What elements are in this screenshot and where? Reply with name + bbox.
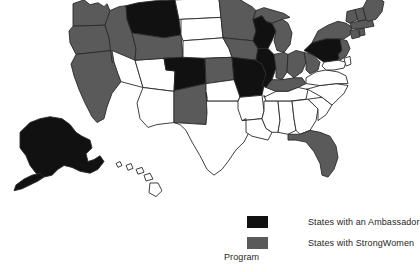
state-hawaii-island-2 [126,163,133,170]
legend-swatch-program [247,237,268,249]
state-washington [73,0,110,26]
legend-label-program: States with StrongWomen [308,238,414,249]
state-michigan [272,18,292,52]
state-rhode-island [359,28,365,36]
state-maine [363,0,384,21]
state-hawaii-island-5 [149,183,162,197]
state-minnesota [219,0,256,41]
state-hawaii-island-3 [136,167,144,174]
legend-label-ambassador: States with an Ambassador [308,217,420,228]
state-hawaii-island-4 [144,173,153,181]
legend-swatch-ambassador [247,216,268,228]
state-kansas [205,57,234,83]
legend-item-ambassador: States with an Ambassador [247,215,420,229]
map-legend: States with an Ambassador States with St… [224,210,398,272]
us-map-svg [0,0,398,219]
state-north-dakota [175,0,221,19]
state-florida [288,130,338,177]
state-arizona [137,88,174,128]
legend-label-program-continuation: Program [224,252,259,263]
state-oregon [69,25,112,54]
state-connecticut [350,29,360,39]
state-alaska [20,117,104,177]
state-new-mexico [174,84,207,125]
state-wyoming [132,33,183,60]
state-maryland [322,60,346,70]
state-hawaii-island-1 [116,162,122,168]
state-alaska-aleutians [14,173,44,191]
state-indiana [274,52,288,79]
state-arkansas [238,95,264,120]
state-montana [126,0,181,38]
state-ohio [287,50,306,77]
state-south-dakota [181,17,223,40]
legend-item-program: States with StrongWomen [247,236,414,250]
